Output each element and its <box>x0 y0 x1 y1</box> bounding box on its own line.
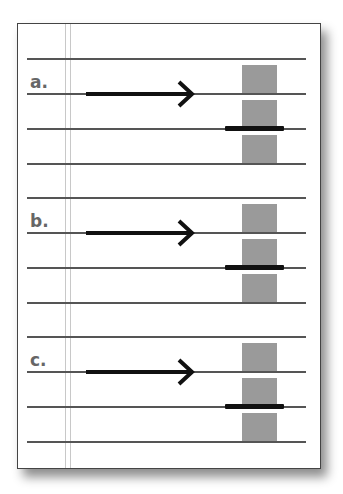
arrow-head-icon <box>176 219 196 247</box>
section-label: b. <box>30 213 49 230</box>
bold-bar <box>225 404 284 409</box>
rule-line <box>27 58 306 60</box>
gray-block-bottom <box>242 274 277 302</box>
arrow-head-icon <box>176 358 196 386</box>
rule-line <box>27 163 306 165</box>
gray-block-bottom <box>242 135 277 163</box>
arrow-head-icon <box>176 80 196 108</box>
gray-block-middle <box>242 378 277 406</box>
gray-block-top <box>242 65 277 93</box>
margin-line-right <box>70 24 71 468</box>
gray-block-middle <box>242 100 277 128</box>
rule-line <box>27 441 306 443</box>
rule-line <box>27 336 306 338</box>
bold-bar <box>225 126 284 131</box>
gray-block-middle <box>242 239 277 267</box>
section-label: c. <box>30 352 47 369</box>
rule-line <box>27 197 306 199</box>
ruled-paper-card: a. b. c. <box>17 23 321 469</box>
gray-block-top <box>242 204 277 232</box>
rule-line <box>27 302 306 304</box>
gray-block-bottom <box>242 413 277 441</box>
bold-bar <box>225 265 284 270</box>
margin-line-left <box>65 24 66 468</box>
gray-block-top <box>242 343 277 371</box>
section-label: a. <box>30 74 48 91</box>
